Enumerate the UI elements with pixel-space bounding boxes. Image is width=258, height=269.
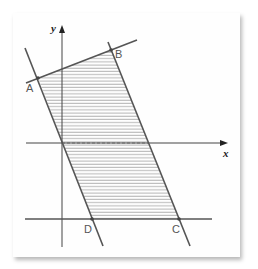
diagram: A B C D y x [0, 0, 258, 269]
y-axis-arrow-icon [59, 25, 65, 33]
point-D-marker [90, 217, 94, 221]
point-C-marker [177, 217, 181, 221]
point-B-marker [109, 48, 113, 52]
point-C-label: C [172, 223, 180, 235]
x-axis-label: x [222, 147, 229, 159]
point-B-label: B [115, 48, 122, 60]
point-A-marker [36, 76, 40, 80]
point-A-label: A [26, 82, 34, 94]
x-axis-arrow-icon [220, 140, 228, 146]
point-D-label: D [84, 223, 92, 235]
y-axis-label: y [49, 22, 56, 34]
